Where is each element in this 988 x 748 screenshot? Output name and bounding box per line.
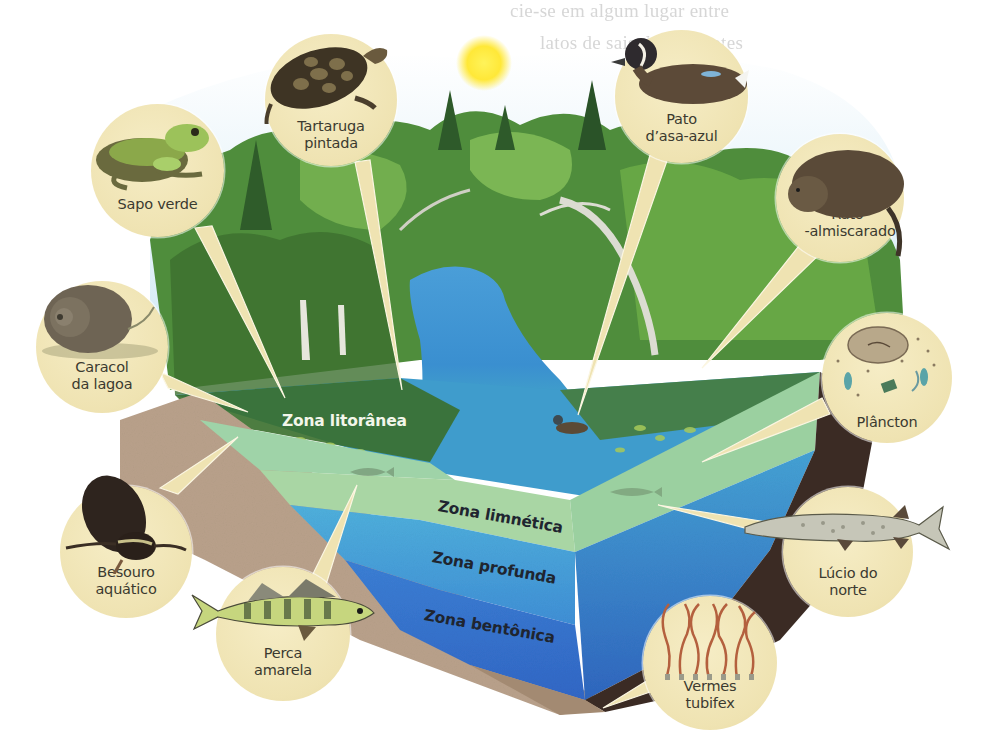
callout-perca-amarela: Perca amarela — [216, 567, 350, 701]
callout-plancton: Plâncton — [822, 313, 952, 443]
frog-icon — [87, 112, 217, 194]
duck-icon — [611, 30, 761, 110]
lake-ecosystem-diagram: cie-se em algum lugar entre latos de sai… — [0, 0, 988, 748]
callout-rato-almiscarado: Rato- -almiscarado — [776, 134, 904, 262]
callout-label: Caracol da lagoa — [72, 359, 133, 393]
callout-label: Vermes tubifex — [684, 678, 737, 712]
zone-label-litoranea: Zona litorânea — [282, 412, 407, 430]
perch-fish-icon — [188, 577, 378, 643]
callout-label: Pato d’asa-azul — [645, 111, 717, 145]
turtle-icon — [259, 32, 399, 124]
callout-caracol-lagoa: Caracol da lagoa — [36, 281, 168, 413]
callout-sapo-verde: Sapo verde — [91, 104, 224, 237]
sun-icon — [456, 35, 512, 91]
worms-icon — [657, 602, 767, 682]
snail-icon — [36, 279, 166, 361]
pike-fish-icon — [743, 499, 953, 559]
callout-label: Sapo verde — [117, 196, 197, 213]
callout-vermes-tubifex: Vermes tubifex — [643, 596, 777, 730]
callout-pato-asa-azul: Pato d’asa-azul — [615, 30, 748, 163]
callout-label: Plâncton — [857, 414, 918, 431]
callout-label: Lúcio do norte — [819, 565, 878, 599]
beetle-icon — [58, 464, 188, 574]
plankton-icon — [828, 321, 946, 409]
callout-tartaruga-pintada: Tartaruga pintada — [265, 34, 397, 166]
callout-besouro-aquatico: Besouro aquático — [60, 486, 192, 618]
callout-label: Perca amarela — [254, 645, 312, 679]
muskrat-icon — [778, 138, 918, 258]
callout-lucio-norte: Lúcio do norte — [783, 487, 913, 617]
